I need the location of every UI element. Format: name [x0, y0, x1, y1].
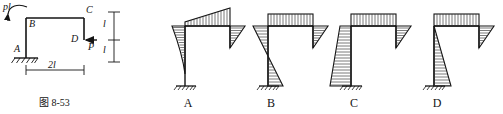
dimension-label-2l: 2l — [48, 60, 56, 70]
option-b-diagram — [253, 14, 328, 90]
load-label-pl: pl — [3, 2, 11, 12]
option-c-diagram — [330, 14, 411, 90]
option-label-c: C — [347, 97, 361, 109]
dimension-label-l-lower: l — [103, 45, 106, 55]
figure-vector-canvas — [0, 0, 503, 114]
figure-caption: 图 8-53 — [39, 98, 70, 108]
dimension-vertical-l — [108, 12, 120, 62]
option-label-a: A — [181, 97, 195, 109]
node-label-c: C — [86, 5, 93, 15]
option-a-diagram — [172, 8, 245, 90]
figure-8-53: pl B C D A P 2l l l 图 8-53 A B C D — [0, 0, 503, 114]
load-label-p: P — [88, 42, 94, 52]
option-d-diagram — [423, 14, 494, 90]
node-label-a: A — [14, 44, 20, 54]
fixed-support — [12, 58, 39, 63]
dimension-label-l-upper: l — [103, 19, 106, 29]
option-label-b: B — [264, 97, 278, 109]
node-label-b: B — [29, 19, 35, 29]
node-label-d: D — [71, 34, 78, 44]
option-label-d: D — [430, 97, 444, 109]
